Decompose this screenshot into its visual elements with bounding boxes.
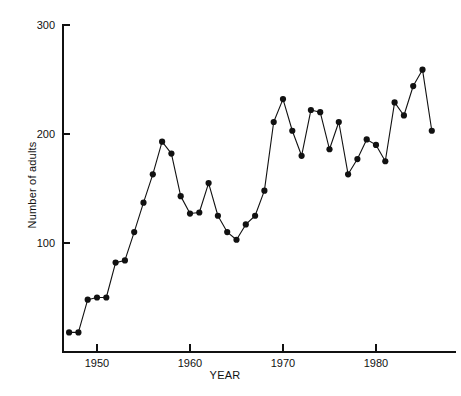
- x-tick-label: 1950: [85, 357, 109, 369]
- data-point: [317, 109, 323, 115]
- data-point: [308, 107, 314, 113]
- data-point: [299, 153, 305, 159]
- axes-group: [63, 25, 455, 352]
- data-point: [215, 213, 221, 219]
- data-point: [252, 213, 258, 219]
- data-point: [429, 128, 435, 134]
- data-point: [410, 83, 416, 89]
- data-point: [66, 329, 72, 335]
- y-axis-ticks: [63, 25, 70, 243]
- data-point: [224, 229, 230, 235]
- data-point: [113, 260, 119, 266]
- data-point: [419, 67, 425, 73]
- x-axis-ticks: [97, 344, 376, 352]
- data-point: [373, 142, 379, 148]
- data-point: [206, 180, 212, 186]
- x-tick-label: 1960: [178, 357, 202, 369]
- data-point: [85, 297, 91, 303]
- data-point: [159, 139, 165, 145]
- data-point: [243, 221, 249, 227]
- y-axis-title: Number of adults: [26, 141, 38, 228]
- data-point: [94, 294, 100, 300]
- data-point: [326, 146, 332, 152]
- data-point: [233, 237, 239, 243]
- y-tick-label: 200: [37, 128, 55, 140]
- x-tick-label: 1980: [364, 357, 388, 369]
- data-point: [382, 158, 388, 164]
- y-axis-tick-labels: 100200300: [37, 19, 55, 249]
- data-point: [131, 229, 137, 235]
- data-point: [364, 136, 370, 142]
- y-tick-label: 300: [37, 19, 55, 31]
- data-point: [271, 119, 277, 125]
- data-point: [122, 257, 128, 263]
- x-axis-title: YEAR: [210, 369, 241, 381]
- data-point: [75, 329, 81, 335]
- data-point: [336, 119, 342, 125]
- chart-figure: 100200300 1950196019701980 YEAR Number o…: [0, 0, 461, 396]
- data-point: [196, 209, 202, 215]
- data-point: [150, 171, 156, 177]
- data-point: [168, 151, 174, 157]
- y-tick-label: 100: [37, 237, 55, 249]
- data-point: [178, 193, 184, 199]
- x-tick-label: 1970: [271, 357, 295, 369]
- data-point: [401, 112, 407, 118]
- x-axis-tick-labels: 1950196019701980: [85, 357, 388, 369]
- data-point: [280, 96, 286, 102]
- line-chart: 100200300 1950196019701980 YEAR Number o…: [0, 0, 461, 396]
- data-series-markers: [66, 67, 435, 336]
- data-point: [289, 128, 295, 134]
- data-point: [103, 294, 109, 300]
- data-series-line: [69, 70, 432, 333]
- data-point: [261, 188, 267, 194]
- data-point: [392, 99, 398, 105]
- data-point: [187, 210, 193, 216]
- data-point: [345, 171, 351, 177]
- data-point: [140, 200, 146, 206]
- data-point: [354, 156, 360, 162]
